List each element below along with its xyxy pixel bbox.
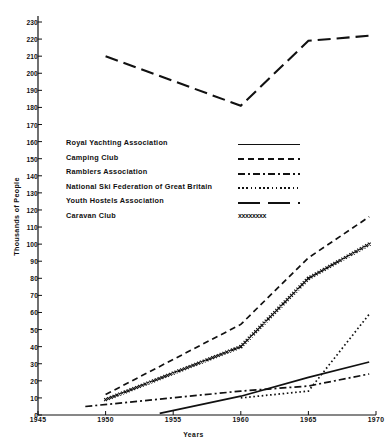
legend: Royal Yachting AssociationCamping ClubRa… [66,138,336,226]
legend-swatch-long-dash [238,202,300,204]
series-2-line [106,217,370,395]
legend-item: Ramblers Association [66,167,336,182]
legend-item: Youth Hostels Association [66,196,336,211]
legend-item: National Ski Federation of Great Britain [66,182,336,197]
legend-item-label: Youth Hostels Association [66,196,164,205]
legend-item: Caravan Clubxxxxxxxx [66,211,336,226]
series-5-line [106,36,370,106]
legend-item: Royal Yachting Association [66,138,336,153]
legend-swatch-dashed [238,158,300,160]
legend-item-label: Royal Yachting Association [66,138,168,147]
legend-swatch-dotted [238,187,300,189]
legend-swatch-crosses: xxxxxxxx [238,212,266,219]
line-chart: 0102030405060708090100110120130140150160… [0,0,387,444]
legend-swatch-solid [238,144,300,150]
legend-item-label: National Ski Federation of Great Britain [66,182,212,191]
legend-item-label: Camping Club [66,153,118,162]
series-6-crosses [104,243,371,401]
legend-item-label: Caravan Club [66,211,116,220]
legend-item-label: Ramblers Association [66,167,147,176]
series-1-line [160,362,370,413]
legend-swatch-dash-dot [238,173,300,175]
legend-item: Camping Club [66,153,336,168]
